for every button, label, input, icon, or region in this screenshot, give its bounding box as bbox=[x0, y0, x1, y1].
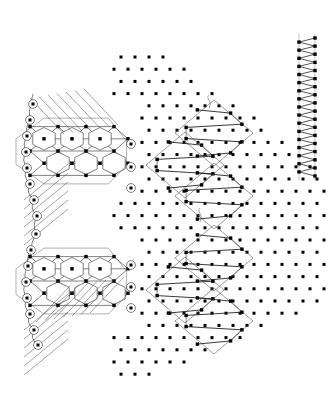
lattice-dot bbox=[176, 275, 179, 278]
lattice-dot bbox=[302, 202, 305, 205]
lattice-dot bbox=[239, 117, 242, 120]
zigzag-node-right bbox=[313, 101, 316, 104]
lattice-node bbox=[42, 137, 45, 140]
lattice-node bbox=[112, 174, 115, 177]
lattice-node bbox=[84, 304, 87, 307]
lattice-dot bbox=[141, 214, 144, 217]
lattice-node bbox=[42, 162, 45, 165]
lattice-dot bbox=[141, 287, 144, 290]
lattice-node bbox=[56, 149, 59, 152]
lattice-dot bbox=[162, 104, 165, 107]
lattice-dot bbox=[225, 117, 228, 120]
lattice-dot bbox=[316, 226, 319, 229]
lattice-dot bbox=[127, 214, 130, 217]
zigzag-node-right bbox=[313, 126, 316, 129]
lattice-dot bbox=[260, 202, 263, 205]
lattice-dot bbox=[232, 104, 235, 107]
lattice-dot bbox=[239, 336, 242, 339]
lattice-figure-canvas bbox=[0, 0, 329, 397]
lattice-dot bbox=[225, 336, 228, 339]
chain-endpoint bbox=[184, 262, 187, 265]
lattice-dot bbox=[204, 129, 207, 132]
lattice-dot bbox=[246, 153, 249, 156]
figure-root: Multiscale lattice domain decomposition bbox=[0, 0, 329, 397]
lattice-dot bbox=[253, 239, 256, 242]
lattice-dot bbox=[141, 117, 144, 120]
lattice-dot bbox=[323, 239, 326, 242]
zigzag-node-left bbox=[297, 97, 300, 100]
lattice-dot bbox=[162, 153, 165, 156]
chain-endpoint bbox=[229, 299, 232, 302]
lattice-dot bbox=[169, 190, 172, 193]
chain-endpoint bbox=[196, 171, 199, 174]
lattice-dot bbox=[239, 214, 242, 217]
lattice-dot bbox=[239, 165, 242, 168]
lattice-dot bbox=[183, 214, 186, 217]
lattice-dot bbox=[225, 239, 228, 242]
zigzag-node-left bbox=[297, 105, 300, 108]
lattice-dot bbox=[113, 336, 116, 339]
lattice-dot bbox=[190, 104, 193, 107]
chain-endpoint bbox=[211, 297, 214, 300]
lattice-dot bbox=[267, 239, 270, 242]
lattice-dot bbox=[155, 68, 158, 71]
lattice-dot bbox=[309, 287, 312, 290]
lattice-node bbox=[98, 137, 101, 140]
chain-endpoint bbox=[184, 126, 187, 129]
chain-endpoint bbox=[184, 314, 187, 317]
lattice-dot bbox=[302, 300, 305, 303]
lattice-dot bbox=[274, 202, 277, 205]
lattice-dot bbox=[190, 226, 193, 229]
chain-endpoint bbox=[229, 276, 232, 279]
zigzag-node-right bbox=[313, 36, 316, 39]
lattice-dot bbox=[239, 190, 242, 193]
lattice-dot bbox=[148, 104, 151, 107]
lattice-dot bbox=[162, 56, 165, 59]
lattice-dot bbox=[197, 239, 200, 242]
zigzag-node-right bbox=[313, 166, 316, 169]
chain-endpoint bbox=[240, 123, 243, 126]
lattice-dot bbox=[162, 251, 165, 254]
boundary-ring-right-core bbox=[130, 286, 133, 289]
boundary-ring-left-core bbox=[32, 103, 35, 106]
boundary-ring-left-core bbox=[33, 329, 36, 332]
lattice-node bbox=[42, 267, 45, 270]
chain-endpoint bbox=[229, 339, 232, 342]
lattice-dot bbox=[323, 214, 326, 217]
lattice-node bbox=[112, 304, 115, 307]
lattice-dot bbox=[288, 226, 291, 229]
lattice-dot bbox=[127, 68, 130, 71]
lattice-dot bbox=[267, 287, 270, 290]
lattice-dot bbox=[267, 263, 270, 266]
lattice-dot bbox=[281, 239, 284, 242]
lattice-dot bbox=[155, 312, 158, 315]
lattice-dot bbox=[183, 361, 186, 364]
lattice-dot bbox=[148, 153, 151, 156]
lattice-dot bbox=[316, 251, 319, 254]
lattice-dot bbox=[253, 263, 256, 266]
lattice-dot bbox=[183, 287, 186, 290]
lattice-dot bbox=[260, 251, 263, 254]
lattice-dot bbox=[155, 361, 158, 364]
boundary-ring-left-core bbox=[35, 233, 38, 236]
lattice-dot bbox=[148, 202, 151, 205]
lattice-dot bbox=[190, 129, 193, 132]
zigzag-node-right bbox=[313, 150, 316, 153]
boundary-ring-left-core bbox=[33, 199, 36, 202]
lattice-dot bbox=[176, 178, 179, 181]
lattice-dot bbox=[169, 117, 172, 120]
zigzag-node-right bbox=[313, 53, 316, 56]
lattice-dot bbox=[169, 92, 172, 95]
lattice-dot bbox=[190, 275, 193, 278]
lattice-dot bbox=[225, 165, 228, 168]
lattice-dot bbox=[211, 214, 214, 217]
chain-endpoint bbox=[184, 189, 187, 192]
lattice-dot bbox=[141, 141, 144, 144]
lattice-node bbox=[42, 292, 45, 295]
lattice-dot bbox=[162, 300, 165, 303]
lattice-dot bbox=[260, 275, 263, 278]
zigzag-node-left bbox=[297, 138, 300, 141]
lattice-dot bbox=[120, 226, 123, 229]
zigzag-node-right bbox=[313, 174, 316, 177]
lattice-dot bbox=[183, 117, 186, 120]
